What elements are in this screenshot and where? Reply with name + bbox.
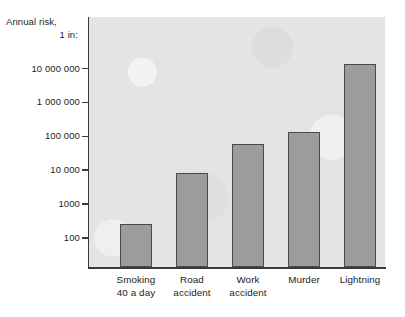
y-axis-title-line2: 1 in: — [6, 29, 80, 42]
bar — [232, 144, 264, 267]
y-tick-label-wrap: 1 000 000 — [0, 97, 80, 107]
x-axis-category-label-line: accident — [208, 287, 288, 300]
bar — [176, 173, 208, 267]
y-tick-label: 100 000 — [2, 131, 80, 141]
y-tick-label: 1000 — [2, 199, 80, 209]
y-tick-label-wrap: 100 000 — [0, 131, 80, 141]
y-tick-label: 1 000 000 — [2, 97, 80, 107]
bar — [288, 132, 320, 267]
y-tick-label-wrap: 100 — [0, 233, 80, 243]
bar — [120, 224, 152, 267]
y-tick-label: 10 000 — [2, 165, 80, 175]
y-tick-mark — [82, 203, 89, 205]
y-tick-label: 100 — [2, 233, 80, 243]
y-tick-label-wrap: 10 000 — [0, 165, 80, 175]
y-tick-mark — [82, 169, 89, 171]
y-tick-mark — [82, 68, 89, 70]
y-axis-title: Annual risk, 1 in: — [6, 16, 80, 41]
y-tick-label: 10 000 000 — [2, 64, 80, 74]
x-axis-baseline — [88, 267, 386, 269]
y-axis-title-line1: Annual risk, — [6, 16, 80, 29]
bar-chart-figure: Annual risk, 1 in: 10 000 0001 000 00010… — [0, 0, 405, 317]
y-tick-mark — [82, 102, 89, 104]
bar — [344, 64, 376, 267]
x-axis-category-label: Lightning — [320, 274, 400, 287]
y-tick-label-wrap: 1000 — [0, 199, 80, 209]
y-tick-label-wrap: 10 000 000 — [0, 64, 80, 74]
x-axis-category-label-line: Lightning — [320, 274, 400, 287]
y-tick-mark — [82, 237, 89, 239]
y-tick-mark — [82, 136, 89, 138]
